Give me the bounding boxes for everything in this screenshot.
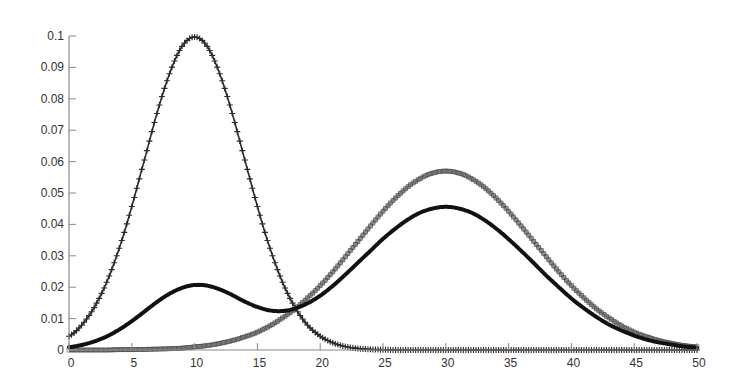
- plus-marker: [172, 58, 178, 64]
- y-tick-label: 0.1: [47, 29, 64, 43]
- plus-marker: [277, 273, 283, 279]
- plus-marker: [164, 78, 170, 84]
- plus-marker: [129, 204, 135, 210]
- plus-marker: [229, 111, 235, 117]
- x-tick-label: 35: [504, 356, 518, 370]
- plus-marker: [146, 138, 152, 144]
- plus-marker: [166, 71, 172, 77]
- plus-marker: [249, 185, 255, 191]
- x-tick-label: 30: [441, 356, 455, 370]
- plus-marker: [262, 229, 268, 235]
- plus-marker: [224, 94, 230, 100]
- plus-marker: [282, 285, 288, 291]
- plus-marker: [239, 148, 245, 154]
- series-1: [66, 34, 700, 353]
- y-tick-label: 0: [57, 343, 64, 357]
- x-tick-label: 50: [692, 356, 706, 370]
- y-tick-label: 0.07: [41, 123, 65, 137]
- plus-marker: [257, 212, 263, 218]
- plus-marker: [114, 253, 120, 259]
- plus-marker: [141, 157, 147, 163]
- plus-marker: [232, 119, 238, 125]
- mixture-line: [69, 207, 697, 348]
- series-line: [69, 37, 697, 350]
- x-tick-label: 45: [630, 356, 644, 370]
- plus-marker: [134, 185, 140, 191]
- plus-marker: [222, 85, 228, 91]
- y-tick-label: 0.02: [41, 280, 65, 294]
- y-tick-label: 0.03: [41, 249, 65, 263]
- plus-marker: [212, 58, 218, 64]
- x-tick-label: 25: [378, 356, 392, 370]
- x-tick-label: 15: [253, 356, 267, 370]
- plus-marker: [217, 71, 223, 77]
- plus-marker: [274, 267, 280, 273]
- plus-marker: [237, 138, 243, 144]
- plus-marker: [264, 237, 270, 243]
- series-2: [67, 169, 699, 352]
- plus-marker: [272, 260, 278, 266]
- plus-marker: [104, 279, 110, 285]
- plus-marker: [156, 102, 162, 108]
- plus-marker: [149, 129, 155, 135]
- plus-marker: [269, 253, 275, 259]
- y-tick-label: 0.06: [41, 155, 65, 169]
- x-tick-label: 20: [316, 356, 330, 370]
- plus-marker: [252, 195, 258, 201]
- y-tick-label: 0.05: [41, 186, 65, 200]
- plus-marker: [280, 279, 286, 285]
- y-tick-label: 0.04: [41, 217, 65, 231]
- y-ticks: 00.010.020.030.040.050.060.070.080.090.1: [41, 29, 76, 357]
- plus-marker: [126, 212, 132, 218]
- plus-marker: [116, 245, 122, 251]
- plus-marker: [154, 111, 160, 117]
- plus-marker: [111, 260, 117, 266]
- plus-marker: [242, 157, 248, 163]
- plus-marker: [106, 273, 112, 279]
- x-tick-label: 10: [190, 356, 204, 370]
- plus-marker: [144, 148, 150, 154]
- plus-marker: [151, 119, 157, 125]
- plus-marker: [161, 85, 167, 91]
- y-tick-label: 0.08: [41, 92, 65, 106]
- y-tick-label: 0.01: [41, 312, 65, 326]
- plus-marker: [214, 64, 220, 70]
- y-tick-label: 0.09: [41, 60, 65, 74]
- plus-marker: [254, 204, 260, 210]
- plus-marker: [259, 221, 265, 227]
- plus-marker: [101, 285, 107, 291]
- x-tick-label: 40: [567, 356, 581, 370]
- plus-marker: [169, 64, 175, 70]
- plus-marker: [159, 94, 165, 100]
- plus-marker: [109, 267, 115, 273]
- plus-marker: [219, 78, 225, 84]
- plus-marker: [247, 176, 253, 182]
- plus-marker: [139, 166, 145, 172]
- line-chart: 00.010.020.030.040.050.060.070.080.090.1…: [0, 0, 743, 388]
- plus-marker: [124, 221, 130, 227]
- plus-marker: [267, 245, 273, 251]
- plus-marker: [119, 237, 125, 243]
- plus-marker: [244, 166, 250, 172]
- x-tick-label: 0: [68, 356, 75, 370]
- x-tick-label: 5: [130, 356, 137, 370]
- plus-marker: [131, 195, 137, 201]
- series-3: [69, 207, 697, 348]
- plot-area: [66, 34, 700, 353]
- plus-marker: [227, 102, 233, 108]
- plus-marker: [234, 129, 240, 135]
- plus-marker: [121, 229, 127, 235]
- plus-marker: [136, 176, 142, 182]
